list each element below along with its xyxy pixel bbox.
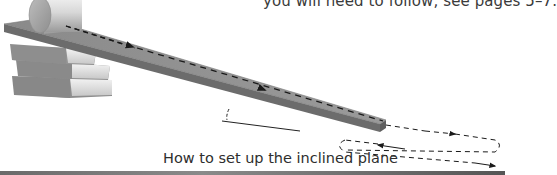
figure-caption: How to set up the inclined plane [163, 150, 398, 166]
page-bottom-rule [0, 171, 505, 175]
cylinder-roller [29, 0, 82, 34]
angle-marker [222, 109, 300, 131]
